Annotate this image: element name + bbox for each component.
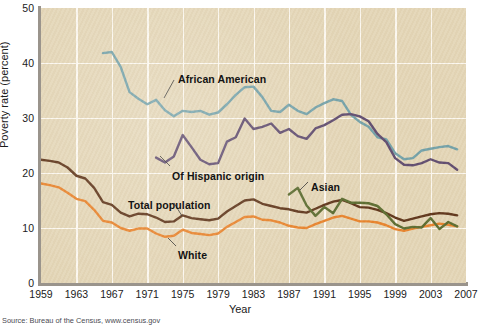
annotation-total-population: Total population (128, 199, 210, 211)
x-tick-1983: 1983 (242, 288, 265, 300)
source-note: Source: Bureau of the Census, www.census… (2, 316, 160, 325)
x-tick-1967: 1967 (100, 288, 123, 300)
leader-line-0 (164, 80, 174, 98)
x-tick-1963: 1963 (65, 288, 88, 300)
y-tick-20: 20 (2, 167, 34, 179)
series-lines (41, 8, 466, 283)
leader-line-4 (168, 238, 176, 246)
x-axis-label: Year (229, 303, 251, 315)
y-tick-30: 30 (2, 112, 34, 124)
y-tick-50: 50 (2, 2, 34, 14)
plot-area (41, 8, 466, 283)
annotation-white: White (178, 249, 207, 261)
line-white (41, 183, 457, 236)
x-tick-1959: 1959 (29, 288, 52, 300)
x-tick-1995: 1995 (348, 288, 371, 300)
line-of-hispanic-origin (156, 114, 457, 170)
x-tick-1991: 1991 (313, 288, 336, 300)
annotation-african-american: African American (178, 73, 266, 85)
x-tick-2007: 2007 (454, 288, 477, 300)
leader-line-2 (300, 182, 308, 190)
y-tick-40: 40 (2, 57, 34, 69)
annotation-asian: Asian (311, 181, 340, 193)
x-tick-1979: 1979 (206, 288, 229, 300)
y-tick-10: 10 (2, 222, 34, 234)
x-tick-1999: 1999 (383, 288, 406, 300)
x-tick-1975: 1975 (171, 288, 194, 300)
x-tick-1987: 1987 (277, 288, 300, 300)
x-tick-2003: 2003 (419, 288, 442, 300)
figure-root: Poverty rate (percent) Year 01020304050 … (0, 0, 479, 325)
line-african-american (103, 52, 457, 159)
x-tick-1971: 1971 (136, 288, 159, 300)
annotation-of-hispanic-origin: Of Hispanic origin (172, 170, 264, 182)
